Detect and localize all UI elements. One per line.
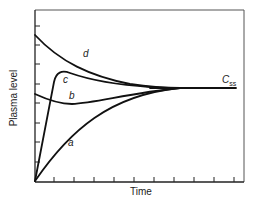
plasma-level-chart xyxy=(0,0,256,205)
curve-a-label: a xyxy=(68,137,74,148)
curve-d-label: d xyxy=(83,48,89,59)
x-axis-label: Time xyxy=(130,186,152,197)
curve-d xyxy=(35,35,180,88)
x-ticks xyxy=(54,177,234,182)
steady-state-label: Css xyxy=(222,74,236,87)
curve-c-label: c xyxy=(63,74,68,85)
curve-b-label: b xyxy=(69,90,75,101)
y-axis-label: Plasma level xyxy=(8,70,19,127)
css-sub: ss xyxy=(229,80,236,87)
